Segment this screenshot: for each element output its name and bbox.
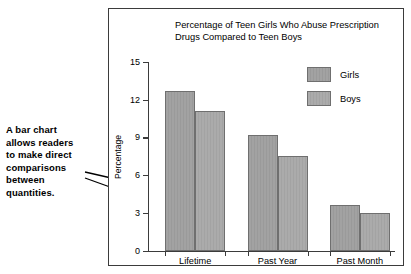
x-axis-label-lifetime: Lifetime [179,256,211,266]
y-axis-tick [143,251,148,252]
bar-girls-past-month [330,205,360,250]
x-axis-label-past-year: Past Year [258,256,297,266]
bar-boys-lifetime [195,111,225,251]
annotation-line: between [6,174,104,187]
bar-boys-past-month [360,213,390,251]
y-axis-tick [143,137,148,138]
annotation-text: A bar chart allows readers to make direc… [6,124,104,200]
x-axis-line [148,251,395,252]
chart-container: Percentage of Teen Girls Who Abuse Presc… [108,8,404,266]
annotation-line: to make direct [6,149,104,162]
bar-boys-past-year [278,156,308,250]
chart-title: Percentage of Teen Girls Who Abuse Presc… [175,19,390,44]
x-axis-tick [225,251,226,256]
y-axis-tick-label: 9 [135,132,140,142]
y-axis-line [148,62,149,252]
annotation-line: quantities. [6,187,104,200]
bar-girls-lifetime [165,91,195,251]
y-axis-tick [143,62,148,63]
y-axis-tick-label: 3 [135,208,140,218]
x-axis-tick [248,251,249,256]
y-axis-tick [143,213,148,214]
y-axis-tick [143,100,148,101]
annotation-line: comparisons [6,162,104,175]
x-axis-tick [165,251,166,256]
x-axis-tick [330,251,331,256]
x-axis-tick [308,251,309,256]
x-axis-label-past-month: Past Month [337,256,383,266]
chart-title-line: Percentage of Teen Girls Who Abuse Presc… [175,19,390,31]
y-axis-title: Percentage [113,135,123,179]
y-axis-tick-label: 15 [130,57,140,67]
bar-girls-past-year [248,135,278,251]
plot-area: Percentage 03691215 LifetimePast YearPas… [148,62,395,252]
annotation-line: A bar chart [6,124,104,137]
chart-title-line: Drugs Compared to Teen Boys [175,31,390,43]
y-axis-tick-label: 6 [135,170,140,180]
y-axis-tick [143,175,148,176]
y-axis-tick-label: 12 [130,95,140,105]
x-axis-tick [390,251,391,256]
y-axis-tick-label: 0 [135,246,140,256]
annotation-line: allows readers [6,137,104,150]
